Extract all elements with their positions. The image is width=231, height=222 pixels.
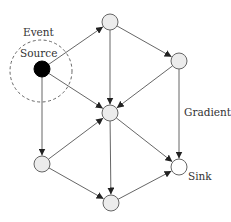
- node-right: [171, 53, 187, 69]
- edge-bottom-to-sink: [118, 171, 171, 199]
- edge-center-to-sink: [116, 118, 172, 162]
- source-label: Source: [20, 47, 57, 59]
- node-top: [102, 14, 118, 30]
- gradient-diagram: Event Source Gradient Sink: [0, 0, 231, 222]
- edge-right-to-center: [117, 66, 173, 108]
- edge-left-to-bottom: [49, 168, 104, 199]
- event-label: Event: [23, 26, 55, 38]
- node-sink: [171, 159, 187, 175]
- edge-left-to-center: [48, 118, 103, 159]
- edge-source-to-center: [49, 73, 103, 108]
- edge-top-to-right: [117, 26, 172, 57]
- node-center: [102, 105, 118, 121]
- node-source: [34, 61, 50, 77]
- gradient-label: Gradient: [184, 106, 231, 118]
- node-bottom: [103, 195, 119, 211]
- edge-center-to-bottom: [110, 121, 111, 195]
- node-left: [34, 156, 50, 172]
- sink-label: Sink: [188, 170, 212, 182]
